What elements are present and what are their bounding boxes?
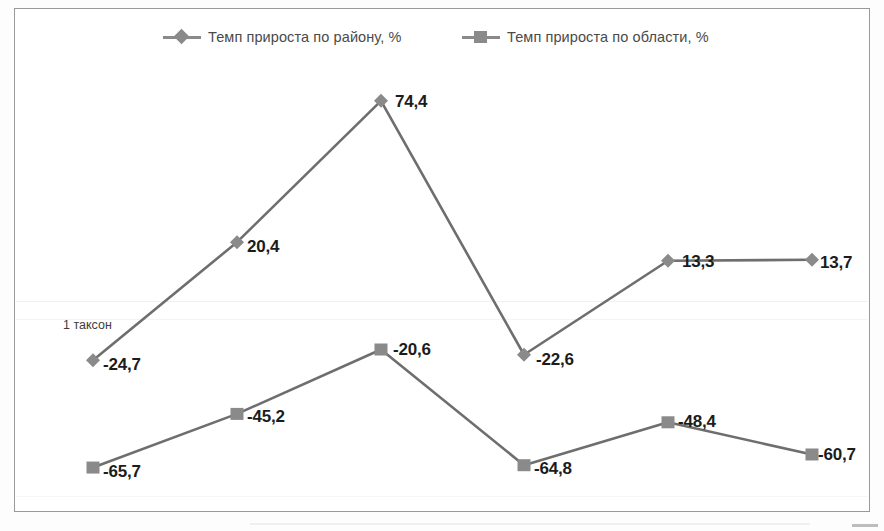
data-point-diamond[interactable] — [517, 348, 531, 362]
data-label: 20,4 — [247, 237, 279, 257]
series-line — [93, 350, 812, 468]
data-label: -20,6 — [393, 340, 431, 360]
scan-smudge — [250, 523, 810, 525]
data-point-diamond[interactable] — [805, 253, 819, 267]
data-label: -65,7 — [103, 462, 141, 482]
chart-screenshot: Темп прироста по району, % Темп прироста… — [0, 0, 884, 531]
data-point-square[interactable] — [806, 448, 819, 460]
data-label: 13,7 — [820, 253, 852, 273]
data-label: -24,7 — [103, 355, 141, 375]
data-label: -60,7 — [818, 445, 856, 465]
data-label: 74,4 — [395, 92, 427, 112]
data-point-square[interactable] — [87, 462, 100, 474]
data-label: -45,2 — [247, 407, 285, 427]
data-point-square[interactable] — [231, 408, 244, 420]
data-label: -48,4 — [678, 412, 716, 432]
data-label: -22,6 — [536, 350, 574, 370]
series-line — [93, 101, 812, 360]
data-point-square[interactable] — [375, 344, 388, 356]
chart-annotation: 1 таксон — [63, 318, 112, 332]
scan-corner-mark — [852, 524, 878, 527]
data-point-square[interactable] — [518, 459, 531, 471]
plot-area — [0, 0, 884, 531]
data-label: 13,3 — [682, 252, 714, 272]
data-point-diamond[interactable] — [661, 254, 675, 268]
data-label: -64,8 — [534, 459, 572, 479]
data-point-square[interactable] — [662, 416, 675, 428]
